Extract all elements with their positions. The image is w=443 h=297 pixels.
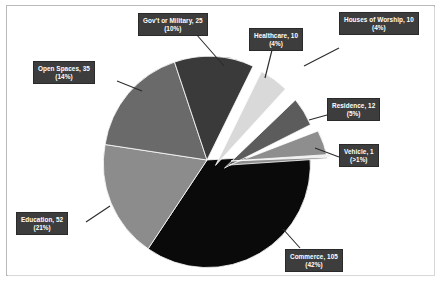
pie-label-vehicle[interactable]: Vehicle, 1 (>1%): [339, 144, 379, 167]
pie-label-healthcare-line1: Healthcare, 10: [254, 32, 298, 39]
pie-label-healthcare[interactable]: Healthcare, 10 (4%): [249, 28, 303, 51]
pie-label-open-line1: Open Spaces, 35: [38, 65, 90, 72]
chart-screenshot: Gov't or Military, 25 (10%) Healthcare, …: [0, 0, 443, 297]
pie-label-residence[interactable]: Residence, 12 (5%): [327, 98, 380, 121]
pie-label-commerce-line2: (42%): [290, 261, 338, 269]
leader-line-residence: [309, 115, 327, 120]
pie-label-healthcare-line2: (4%): [254, 40, 298, 48]
pie-label-education[interactable]: Education, 52 (21%): [16, 212, 68, 235]
pie-label-residence-line1: Residence, 12: [332, 102, 375, 109]
pie-label-residence-line2: (5%): [332, 110, 375, 118]
pie-label-education-line2: (21%): [21, 224, 63, 232]
leader-line-healthcare: [265, 50, 272, 78]
pie-label-commerce[interactable]: Commerce, 105 (42%): [285, 249, 343, 272]
pie-label-houses-of-worship[interactable]: Houses of Worship, 10 (4%): [339, 12, 419, 35]
pie-label-commerce-line1: Commerce, 105: [290, 253, 338, 260]
pie-label-vehicle-line2: (>1%): [344, 156, 374, 164]
pie-label-open-spaces[interactable]: Open Spaces, 35 (14%): [33, 61, 95, 84]
pie-label-govt-line1: Gov't or Military, 25: [143, 17, 203, 24]
leader-line-commerce: [283, 229, 300, 248]
pie-label-vehicle-line1: Vehicle, 1: [344, 148, 374, 155]
leader-line-worship: [304, 48, 339, 66]
pie-label-govt-line2: (10%): [143, 25, 203, 33]
pie-label-worship-line1: Houses of Worship, 10: [344, 16, 414, 23]
pie-label-education-line1: Education, 52: [21, 216, 63, 223]
pie-label-worship-line2: (4%): [344, 24, 414, 32]
leader-line-education: [86, 206, 110, 222]
pie-label-govt-or-military[interactable]: Gov't or Military, 25 (10%): [138, 13, 208, 36]
pie-label-open-line2: (14%): [38, 73, 90, 81]
